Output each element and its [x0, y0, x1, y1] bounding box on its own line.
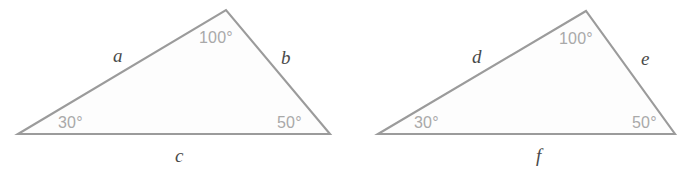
angle-label-right-50-second: 50°: [632, 115, 657, 131]
angle-label-apex-100: 100°: [199, 30, 233, 46]
triangles-canvas: [0, 0, 691, 180]
similar-triangles-diagram: 30° 100° 50° a b c 30° 100° 50° d e f: [0, 0, 691, 180]
angle-label-apex-100-second: 100°: [559, 31, 593, 47]
side-label-e: e: [641, 49, 649, 68]
side-label-a: a: [113, 46, 123, 65]
angle-label-left-30-second: 30°: [414, 115, 439, 131]
side-label-b: b: [281, 48, 291, 67]
side-label-d: d: [472, 47, 482, 66]
angle-label-left-30: 30°: [58, 115, 83, 131]
side-label-f: f: [536, 146, 541, 165]
angle-label-right-50: 50°: [277, 115, 302, 131]
side-label-c: c: [175, 146, 183, 165]
